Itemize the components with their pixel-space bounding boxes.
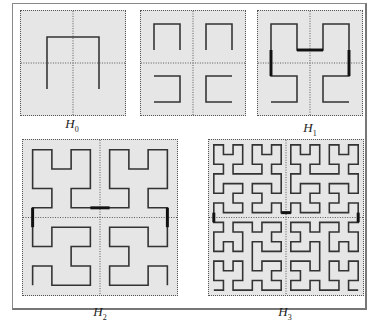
- label-h0: H0: [52, 116, 92, 134]
- panel-h1-split: [140, 10, 246, 116]
- panel-h3: [208, 139, 364, 296]
- label-h3: H3: [265, 304, 305, 322]
- panel-h2: [22, 139, 178, 296]
- label-h2: H2: [80, 304, 120, 322]
- panel-h1: [257, 10, 363, 116]
- label-h1: H1: [290, 120, 330, 138]
- panel-h0: [20, 10, 126, 116]
